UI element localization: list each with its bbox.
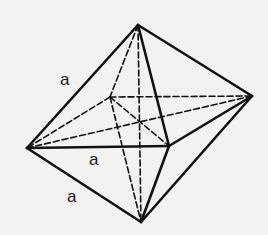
hidden-edge-back-right xyxy=(110,96,252,97)
hidden-edge-back-bottom xyxy=(110,97,141,222)
visible-edge-bottom-front xyxy=(141,146,169,222)
hidden-edge-top-bottom xyxy=(138,25,141,222)
visible-edge-bottom-left xyxy=(27,148,141,222)
edge-label-a-left-front: a xyxy=(89,150,98,170)
visible-edge-left-front xyxy=(27,146,169,148)
octahedron-figure: a a a xyxy=(0,0,268,235)
hidden-edge-back-left xyxy=(27,97,110,148)
edge-label-a-top-left: a xyxy=(60,70,69,90)
visible-edge-bottom-right xyxy=(141,96,252,222)
edge-label-a-bottom-left: a xyxy=(67,187,76,207)
hidden-edge-top-back xyxy=(110,25,138,97)
octahedron-drawing xyxy=(0,0,268,235)
visible-edge-front-right xyxy=(169,96,252,146)
visible-edge-top-front xyxy=(138,25,169,146)
visible-edge-top-right xyxy=(138,25,252,96)
visible-edge-top-left xyxy=(27,25,138,148)
